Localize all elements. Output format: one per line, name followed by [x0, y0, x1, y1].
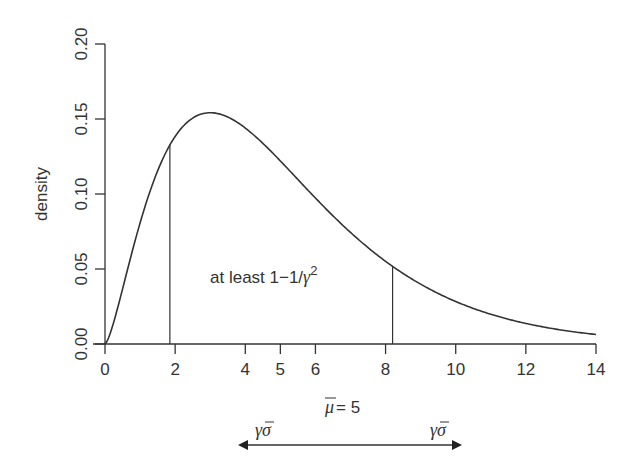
y-tick-label: 0.00: [72, 327, 91, 360]
density-chart: 0.000.050.100.150.20 024568101214 densit…: [0, 0, 634, 476]
x-tick-label: 10: [446, 360, 465, 379]
y-tick-label: 0.20: [72, 27, 91, 60]
x-tick-label: 14: [587, 360, 606, 379]
x-tick-labels: 024568101214: [100, 360, 605, 379]
arrow-left-label: γσ: [255, 420, 272, 440]
coverage-annotation: at least 1−1/γ2: [210, 263, 317, 287]
arrow-right-label: γσ: [430, 420, 447, 440]
x-tick-label: 5: [276, 360, 285, 379]
density-curve: [105, 113, 596, 344]
svg-text:= 5: = 5: [336, 398, 360, 417]
mean-label: μ = 5: [324, 397, 360, 417]
y-axis: [95, 44, 105, 344]
x-axis: [93, 344, 596, 354]
x-tick-label: 12: [516, 360, 535, 379]
x-tick-label: 2: [170, 360, 179, 379]
sigma-arrow: γσ γσ: [240, 420, 460, 445]
x-tick-label: 0: [100, 360, 109, 379]
interval-bounds: [170, 145, 393, 344]
x-tick-label: 4: [241, 360, 250, 379]
y-tick-label: 0.10: [72, 177, 91, 210]
x-tick-label: 8: [381, 360, 390, 379]
svg-text:μ: μ: [324, 397, 334, 417]
y-tick-label: 0.05: [72, 252, 91, 285]
x-tick-label: 6: [311, 360, 320, 379]
y-tick-label: 0.15: [72, 102, 91, 135]
y-axis-label: density: [32, 167, 51, 221]
y-tick-labels: 0.000.050.100.150.20: [72, 27, 91, 360]
